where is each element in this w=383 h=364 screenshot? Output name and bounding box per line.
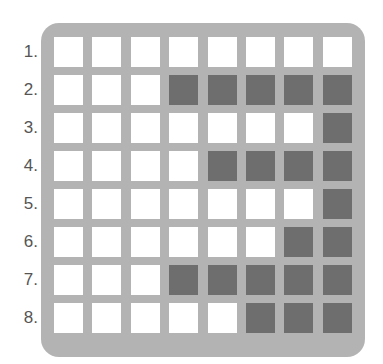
row-label: 1. xyxy=(0,42,38,62)
empty-cell[interactable] xyxy=(246,189,275,219)
row-label: 2. xyxy=(0,80,38,100)
empty-cell[interactable] xyxy=(169,113,198,143)
filled-cell[interactable] xyxy=(208,151,237,181)
empty-cell[interactable] xyxy=(131,113,160,143)
empty-cell[interactable] xyxy=(92,151,121,181)
empty-cell[interactable] xyxy=(284,113,313,143)
filled-cell[interactable] xyxy=(323,113,352,143)
empty-cell[interactable] xyxy=(92,189,121,219)
empty-cell[interactable] xyxy=(208,37,237,67)
empty-cell[interactable] xyxy=(208,113,237,143)
empty-cell[interactable] xyxy=(92,75,121,105)
filled-cell[interactable] xyxy=(284,265,313,295)
filled-cell[interactable] xyxy=(246,75,275,105)
empty-cell[interactable] xyxy=(92,227,121,257)
empty-cell[interactable] xyxy=(169,227,198,257)
row-label: 7. xyxy=(0,270,38,290)
empty-cell[interactable] xyxy=(284,189,313,219)
empty-cell[interactable] xyxy=(131,227,160,257)
filled-cell[interactable] xyxy=(284,151,313,181)
empty-cell[interactable] xyxy=(169,151,198,181)
filled-cell[interactable] xyxy=(169,75,198,105)
empty-cell[interactable] xyxy=(131,37,160,67)
empty-cell[interactable] xyxy=(208,303,237,333)
filled-cell[interactable] xyxy=(169,265,198,295)
grid-board xyxy=(41,23,365,357)
empty-cell[interactable] xyxy=(208,227,237,257)
empty-cell[interactable] xyxy=(54,227,83,257)
empty-cell[interactable] xyxy=(54,265,83,295)
filled-cell[interactable] xyxy=(246,265,275,295)
empty-cell[interactable] xyxy=(323,37,352,67)
empty-cell[interactable] xyxy=(131,303,160,333)
empty-cell[interactable] xyxy=(246,227,275,257)
filled-cell[interactable] xyxy=(323,227,352,257)
empty-cell[interactable] xyxy=(131,265,160,295)
empty-cell[interactable] xyxy=(208,189,237,219)
empty-cell[interactable] xyxy=(54,151,83,181)
filled-cell[interactable] xyxy=(208,265,237,295)
row-label: 5. xyxy=(0,194,38,214)
empty-cell[interactable] xyxy=(131,151,160,181)
filled-cell[interactable] xyxy=(246,303,275,333)
filled-cell[interactable] xyxy=(323,189,352,219)
filled-cell[interactable] xyxy=(323,75,352,105)
filled-cell[interactable] xyxy=(284,303,313,333)
empty-cell[interactable] xyxy=(92,303,121,333)
empty-cell[interactable] xyxy=(54,75,83,105)
row-label: 6. xyxy=(0,232,38,252)
empty-cell[interactable] xyxy=(54,303,83,333)
empty-cell[interactable] xyxy=(92,113,121,143)
empty-cell[interactable] xyxy=(92,37,121,67)
row-label: 3. xyxy=(0,118,38,138)
filled-cell[interactable] xyxy=(208,75,237,105)
empty-cell[interactable] xyxy=(131,189,160,219)
empty-cell[interactable] xyxy=(169,189,198,219)
empty-cell[interactable] xyxy=(246,37,275,67)
empty-cell[interactable] xyxy=(284,37,313,67)
empty-cell[interactable] xyxy=(169,37,198,67)
filled-cell[interactable] xyxy=(284,75,313,105)
row-label: 8. xyxy=(0,308,38,328)
empty-cell[interactable] xyxy=(54,113,83,143)
filled-cell[interactable] xyxy=(323,265,352,295)
filled-cell[interactable] xyxy=(323,151,352,181)
filled-cell[interactable] xyxy=(246,151,275,181)
empty-cell[interactable] xyxy=(54,37,83,67)
empty-cell[interactable] xyxy=(246,113,275,143)
empty-cell[interactable] xyxy=(92,265,121,295)
empty-cell[interactable] xyxy=(54,189,83,219)
filled-cell[interactable] xyxy=(284,227,313,257)
empty-cell[interactable] xyxy=(131,75,160,105)
row-label: 4. xyxy=(0,156,38,176)
empty-cell[interactable] xyxy=(169,303,198,333)
filled-cell[interactable] xyxy=(323,303,352,333)
